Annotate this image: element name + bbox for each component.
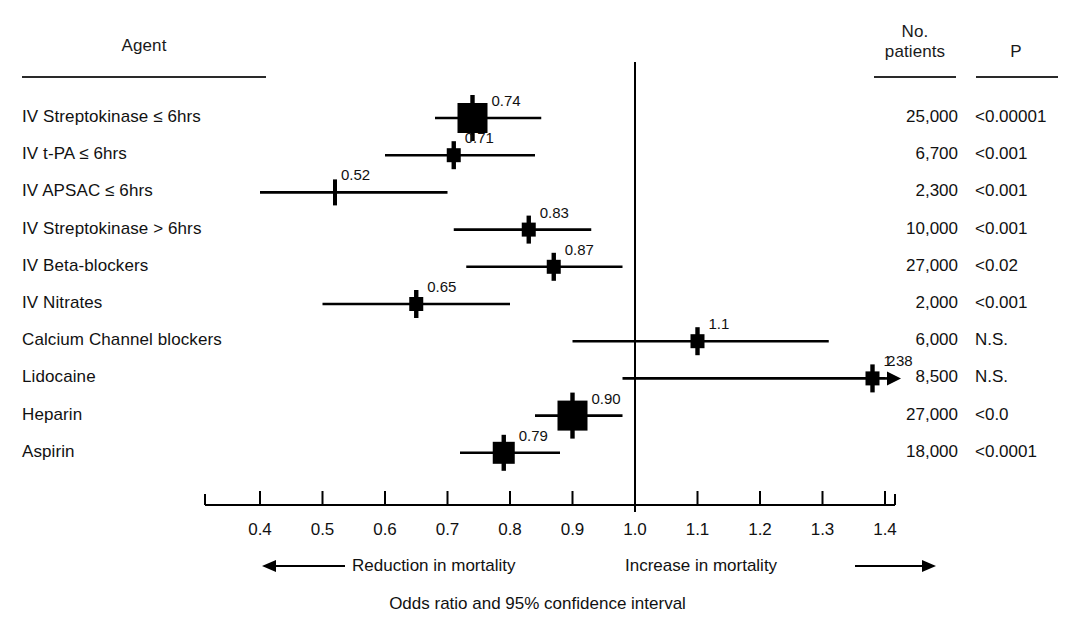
p-value: <0.001 (975, 219, 1075, 239)
axis-caption: Odds ratio and 95% confidence interval (0, 594, 1075, 614)
forest-row (623, 364, 902, 392)
p-value: <0.0 (975, 405, 1075, 425)
odds-ratio-label: 0.90 (592, 390, 621, 407)
forest-row (573, 327, 829, 355)
odds-ratio-label: 0.71 (465, 129, 494, 146)
agent-label: IV Streptokinase > 6hrs (22, 219, 201, 239)
axis-tick-label: 0.6 (362, 520, 408, 540)
axis-tick-label: 0.4 (237, 520, 283, 540)
direction-label-left: Reduction in mortality (352, 556, 515, 576)
p-value: N.S. (975, 367, 1075, 387)
axis-tick-label: 1.4 (862, 520, 908, 540)
header-agent: Agent (22, 36, 266, 56)
agent-label: Lidocaine (22, 367, 96, 387)
agent-label: Aspirin (22, 442, 75, 462)
point-estimate-stem (527, 235, 531, 244)
patients-count: 2,000 (872, 293, 958, 313)
odds-ratio-label: 1.1 (709, 315, 730, 332)
axis-tick-label: 1.0 (612, 520, 658, 540)
agent-label: Heparin (22, 405, 82, 425)
forest-row (323, 290, 511, 318)
patients-count: 6,000 (872, 330, 958, 350)
point-estimate-stem (470, 95, 474, 105)
x-axis (205, 491, 895, 505)
patients-count: 25,000 (872, 107, 958, 127)
axis-tick-label: 0.7 (425, 520, 471, 540)
point-estimate-marker (447, 148, 461, 162)
axis-tick-label: 0.5 (300, 520, 346, 540)
axis-tick-label: 1.3 (800, 520, 846, 540)
point-estimate-stem (502, 462, 506, 471)
odds-ratio-label: 0.65 (427, 278, 456, 295)
odds-ratio-label: 0.74 (492, 92, 521, 109)
patients-count: 2,300 (872, 181, 958, 201)
point-estimate-marker (558, 401, 588, 431)
patients-count: 6,700 (872, 144, 958, 164)
axis-tick-label: 1.1 (675, 520, 721, 540)
p-value: N.S. (975, 330, 1075, 350)
point-estimate-marker (522, 223, 536, 237)
header-p-value: P (975, 42, 1057, 62)
header-no-patients-line2: patients (872, 42, 958, 62)
p-value: <0.001 (975, 181, 1075, 201)
point-estimate-marker (333, 179, 337, 205)
point-estimate-stem (527, 216, 531, 225)
agent-label: IV Streptokinase ≤ 6hrs (22, 107, 201, 127)
p-value: <0.00001 (975, 107, 1075, 127)
point-estimate-stem (414, 309, 418, 318)
p-value: <0.001 (975, 293, 1075, 313)
p-value: <0.02 (975, 256, 1075, 276)
agent-label: IV Beta-blockers (22, 256, 148, 276)
point-estimate-marker (493, 442, 515, 464)
odds-ratio-label: 0.79 (519, 427, 548, 444)
odds-ratio-label: 0.87 (565, 241, 594, 258)
point-estimate-stem (452, 160, 456, 169)
point-estimate-marker (547, 260, 561, 274)
agent-label: Calcium Channel blockers (22, 330, 222, 350)
header-no-patients-line1: No. (872, 22, 958, 42)
agent-label: IV t-PA ≤ 6hrs (22, 144, 127, 164)
axis-tick-label: 1.2 (737, 520, 783, 540)
agent-label: IV APSAC ≤ 6hrs (22, 181, 153, 201)
axis-tick-label: 0.9 (550, 520, 596, 540)
point-estimate-stem (552, 253, 556, 262)
point-estimate-marker (691, 334, 705, 348)
direction-label-right: Increase in mortality (625, 556, 777, 576)
patients-count: 27,000 (872, 405, 958, 425)
forest-row (466, 253, 622, 281)
forest-plot-canvas (0, 0, 1075, 631)
patients-count: 8,500 (872, 367, 958, 387)
axis-tick-label: 0.8 (487, 520, 533, 540)
point-estimate-stem (695, 346, 699, 355)
p-value: <0.001 (975, 144, 1075, 164)
agent-label: IV Nitrates (22, 293, 102, 313)
patients-count: 18,000 (872, 442, 958, 462)
point-estimate-stem (552, 272, 556, 281)
patients-count: 10,000 (872, 219, 958, 239)
point-estimate-stem (570, 393, 574, 403)
forest-row (454, 216, 592, 244)
forest-row (385, 141, 535, 169)
point-estimate-stem (502, 435, 506, 444)
odds-ratio-label: 0.52 (341, 166, 370, 183)
point-estimate-stem (570, 429, 574, 439)
p-value: <0.0001 (975, 442, 1075, 462)
point-estimate-stem (452, 141, 456, 150)
odds-ratio-label: 0.83 (540, 204, 569, 221)
forest-rows-layer (260, 95, 901, 471)
header-no-patients: No. patients (872, 22, 958, 62)
patients-count: 27,000 (872, 256, 958, 276)
point-estimate-stem (414, 290, 418, 299)
point-estimate-stem (695, 327, 699, 336)
point-estimate-marker (409, 297, 423, 311)
